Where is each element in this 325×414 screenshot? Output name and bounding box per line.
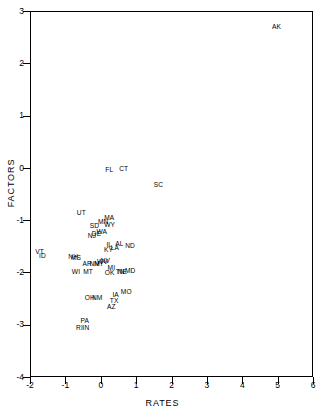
data-point-label: AZ	[107, 304, 116, 311]
data-point-label: MT	[83, 269, 93, 276]
data-point-label: AK	[272, 24, 281, 31]
y-tick-mark	[23, 168, 30, 169]
data-point-label: ND	[125, 242, 135, 249]
data-point-label: NE	[118, 269, 127, 276]
x-tick-label: 5	[268, 381, 288, 390]
data-point-label: OH	[85, 295, 95, 302]
y-tick-mark	[23, 377, 30, 378]
data-point-label: ID	[39, 253, 46, 260]
data-point-label: FL	[105, 167, 113, 174]
y-axis-title: FACTORS	[6, 147, 16, 219]
data-point-label: SC	[154, 181, 163, 188]
x-axis-title: RATES	[0, 398, 325, 408]
y-tick-mark	[23, 272, 30, 273]
x-tick-label: -1	[55, 381, 75, 390]
y-tick-mark	[23, 325, 30, 326]
y-tick-mark	[23, 220, 30, 221]
data-point-label: WI	[72, 269, 80, 276]
scatter-plot: -4-3-2-10123 -2-10123456 AKFLCTSCUTMAMNW…	[0, 0, 325, 414]
x-tick-label: 6	[303, 381, 323, 390]
data-point-label: MO	[121, 289, 132, 296]
data-point-label: MS	[71, 254, 81, 261]
y-tick-label: 2	[8, 59, 24, 68]
data-point-label: PA	[81, 317, 90, 324]
x-tick-label: 1	[126, 381, 146, 390]
data-point-label: CT	[119, 166, 128, 173]
x-tick-label: -2	[20, 381, 40, 390]
y-tick-label: -4	[8, 373, 24, 382]
y-tick-mark	[23, 116, 30, 117]
data-point-label: NJ	[88, 233, 96, 240]
x-tick-label: 2	[162, 381, 182, 390]
data-point-label: KY	[104, 247, 113, 254]
y-tick-label: -2	[8, 268, 24, 277]
y-tick-label: -3	[8, 320, 24, 329]
data-point-label: OK	[105, 270, 115, 277]
plot-frame	[30, 11, 313, 377]
x-tick-label: 4	[232, 381, 252, 390]
data-point-label: AR	[83, 261, 92, 268]
data-point-label: IN	[82, 325, 89, 332]
y-tick-mark	[23, 63, 30, 64]
y-tick-label: 1	[8, 111, 24, 120]
data-point-label: UT	[77, 210, 86, 217]
y-tick-label: 3	[8, 7, 24, 16]
y-tick-mark	[23, 11, 30, 12]
x-tick-label: 3	[197, 381, 217, 390]
x-tick-label: 0	[91, 381, 111, 390]
